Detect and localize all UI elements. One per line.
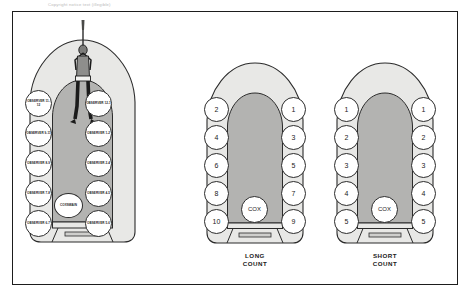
- seat-label: OBSERVER 5-6: [87, 222, 110, 225]
- seat-label: OBSERVER 11-12: [26, 100, 51, 106]
- seat-long-left-3[interactable]: 6: [204, 153, 229, 178]
- seat-label: 8: [215, 190, 219, 197]
- seat-coxswain-observer[interactable]: COXSWAIN: [54, 193, 83, 218]
- seat-observer-right-2[interactable]: OBSERVER 1-2: [85, 120, 112, 147]
- diagram-short-count: 1 2 3 4 5 1 2 3 4: [333, 60, 437, 246]
- seat-short-right-1[interactable]: 1: [411, 97, 436, 122]
- seat-label: 7: [292, 190, 296, 197]
- seat-observer-right-1[interactable]: OBSERVER 12-1: [85, 90, 112, 117]
- seat-label: 5: [422, 218, 426, 225]
- seat-label: COX: [248, 206, 261, 212]
- seat-long-left-5[interactable]: 10: [204, 209, 229, 234]
- seat-label: 5: [292, 162, 296, 169]
- seat-label: 6: [215, 162, 219, 169]
- count-label-line2: COUNT: [373, 260, 398, 267]
- seat-label: COXSWAIN: [60, 204, 77, 207]
- label-long-count: LONG COUNT: [225, 252, 285, 268]
- seat-label: 2: [215, 106, 219, 113]
- count-label-line1: SHORT: [373, 252, 397, 259]
- seat-label: OBSERVER 6-7: [27, 222, 50, 225]
- seat-label: 10: [213, 218, 221, 225]
- count-label-line1: LONG: [245, 252, 265, 259]
- diagram-observer-positions: OBSERVER 11-12 OBSERVER 9-11 OBSERVER 8-…: [25, 36, 140, 246]
- seat-short-right-4[interactable]: 4: [411, 181, 436, 206]
- seat-short-left-3[interactable]: 3: [334, 153, 359, 178]
- seat-label: 3: [292, 134, 296, 141]
- seat-long-right-2[interactable]: 3: [281, 125, 306, 150]
- seat-label: 1: [345, 106, 349, 113]
- seat-short-right-5[interactable]: 5: [411, 209, 436, 234]
- seat-long-left-1[interactable]: 2: [204, 97, 229, 122]
- seat-label: OBSERVER 8-9: [27, 162, 50, 165]
- seat-long-left-2[interactable]: 4: [204, 125, 229, 150]
- seat-observer-left-5[interactable]: OBSERVER 6-7: [25, 210, 52, 237]
- seat-cox-long-count[interactable]: COX: [241, 196, 268, 223]
- seat-long-right-5[interactable]: 9: [281, 209, 306, 234]
- seat-label: 4: [215, 134, 219, 141]
- seat-label: 9: [292, 218, 296, 225]
- seat-long-left-4[interactable]: 8: [204, 181, 229, 206]
- seat-long-right-4[interactable]: 7: [281, 181, 306, 206]
- seat-label: 1: [422, 106, 426, 113]
- seat-label: 3: [422, 162, 426, 169]
- top-caption: Copyright notice text (illegible): [48, 0, 248, 9]
- seat-label: 5: [345, 218, 349, 225]
- seat-short-right-3[interactable]: 3: [411, 153, 436, 178]
- seat-short-left-2[interactable]: 2: [334, 125, 359, 150]
- seat-observer-left-2[interactable]: OBSERVER 9-11: [25, 120, 52, 147]
- seat-label: 2: [422, 134, 426, 141]
- label-short-count: SHORT COUNT: [355, 252, 415, 268]
- diagram-long-count: 2 4 6 8 10 1 3 5 7: [203, 60, 307, 246]
- seat-long-right-1[interactable]: 1: [281, 97, 306, 122]
- seat-observer-right-3[interactable]: OBSERVER 2-4: [85, 150, 112, 177]
- seat-label: 1: [292, 106, 296, 113]
- seat-label: OBSERVER 2-4: [87, 162, 110, 165]
- seat-observer-left-1[interactable]: OBSERVER 11-12: [25, 90, 52, 117]
- seat-label: OBSERVER 7-8: [27, 192, 50, 195]
- seat-long-right-3[interactable]: 5: [281, 153, 306, 178]
- seat-label: 4: [422, 190, 426, 197]
- figure-frame: OBSERVER 11-12 OBSERVER 9-11 OBSERVER 8-…: [12, 11, 458, 285]
- seat-cox-short-count[interactable]: COX: [371, 196, 398, 223]
- seat-label: OBSERVER 4-5: [87, 192, 110, 195]
- seat-label: 4: [345, 190, 349, 197]
- seat-short-left-4[interactable]: 4: [334, 181, 359, 206]
- seat-label: 3: [345, 162, 349, 169]
- seat-label: OBSERVER 9-11: [26, 132, 50, 135]
- seat-label: OBSERVER 12-1: [86, 102, 111, 105]
- seat-observer-left-4[interactable]: OBSERVER 7-8: [25, 180, 52, 207]
- figure-page: Copyright notice text (illegible): [0, 0, 470, 297]
- seat-observer-right-4[interactable]: OBSERVER 4-5: [85, 180, 112, 207]
- count-label-line2: COUNT: [243, 260, 268, 267]
- seat-observer-left-3[interactable]: OBSERVER 8-9: [25, 150, 52, 177]
- seat-short-left-5[interactable]: 5: [334, 209, 359, 234]
- seat-short-left-1[interactable]: 1: [334, 97, 359, 122]
- seat-observer-right-5[interactable]: OBSERVER 5-6: [85, 210, 112, 237]
- seat-label: OBSERVER 1-2: [87, 132, 110, 135]
- seat-label: COX: [378, 206, 391, 212]
- seat-label: 2: [345, 134, 349, 141]
- seat-short-right-2[interactable]: 2: [411, 125, 436, 150]
